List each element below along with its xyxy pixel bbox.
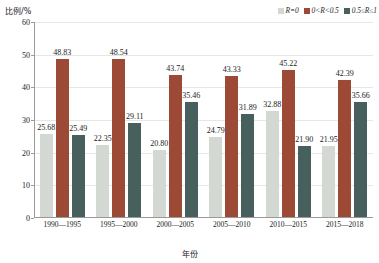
x-axis-tick-label: 2005—2010 <box>204 220 261 229</box>
legend-swatch-r-equals-0 <box>278 8 284 14</box>
y-axis-tick-label: 10 <box>22 181 30 190</box>
legend-label-2: 0.5≤R≤1 <box>352 6 377 15</box>
x-axis-title: 年份 <box>0 248 379 259</box>
x-axis-tick-label: 2000—2005 <box>147 220 204 229</box>
bar-chart: 比例/% R=0 0<R<0.5 0.5≤R≤1 0102030405060 2… <box>0 0 379 263</box>
y-axis-tick-label: 20 <box>22 148 30 157</box>
y-axis-tick-label: 60 <box>22 18 30 27</box>
y-axis-title: 比例/% <box>5 5 31 16</box>
axis-frame <box>34 22 373 218</box>
x-axis-tick-label: 2015—2018 <box>317 220 374 229</box>
y-axis-tick-label: 30 <box>22 116 30 125</box>
y-axis-tick-label: 40 <box>22 83 30 92</box>
legend-item-2: 0.5≤R≤1 <box>344 6 377 15</box>
legend-swatch-r-between-0-and-0point5 <box>304 8 310 14</box>
legend-item-1: 0<R<0.5 <box>304 6 339 15</box>
x-axis-tick-label: 1990—1995 <box>34 220 91 229</box>
x-axis-tick-label: 1995—2000 <box>91 220 148 229</box>
y-axis-tick-mark <box>31 218 34 219</box>
legend-item-0: R=0 <box>278 6 299 15</box>
legend-label-0: R=0 <box>286 6 299 15</box>
chart-legend: R=0 0<R<0.5 0.5≤R≤1 <box>278 6 377 15</box>
x-axis-tick-label: 2010—2015 <box>260 220 317 229</box>
legend-swatch-r-between-0point5-and-1 <box>344 8 350 14</box>
legend-label-1: 0<R<0.5 <box>312 6 339 15</box>
y-axis-tick-label: 0 <box>26 214 30 223</box>
y-axis-tick-label: 50 <box>22 50 30 59</box>
x-axis-tick-labels: 1990—19951995—20002000—20052005—20102010… <box>34 220 373 229</box>
plot-area: 0102030405060 25.6848.8325.4922.3548.542… <box>34 22 373 218</box>
